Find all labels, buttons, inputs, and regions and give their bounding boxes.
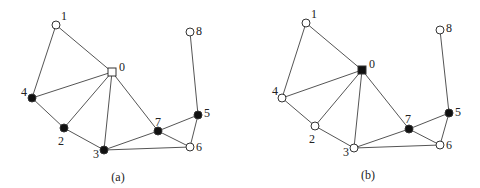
edge-7-6 xyxy=(409,129,440,145)
node-label: 6 xyxy=(196,140,202,154)
node-1 xyxy=(52,21,60,29)
edge-3-6 xyxy=(354,145,440,148)
node-label: 3 xyxy=(93,147,99,161)
edge-1-0 xyxy=(306,23,362,70)
node-label: 8 xyxy=(446,21,452,35)
node-label: 2 xyxy=(58,134,64,148)
edge-0-2 xyxy=(64,72,112,128)
graph-diagram: 012345678(a) 012345678(b) xyxy=(0,0,480,188)
graph-a: 012345678(a) xyxy=(21,9,210,184)
edge-0-7 xyxy=(362,70,409,129)
edge-5-8 xyxy=(440,30,449,113)
node-0 xyxy=(358,66,366,74)
node-2 xyxy=(60,124,68,132)
edge-1-0 xyxy=(56,25,112,72)
caption-b: (b) xyxy=(361,168,375,182)
node-3 xyxy=(350,144,358,152)
edge-5-8 xyxy=(190,32,198,115)
node-label: 4 xyxy=(272,84,278,98)
edge-0-4 xyxy=(32,72,112,98)
edge-4-2 xyxy=(32,98,64,128)
caption-a: (a) xyxy=(111,170,124,184)
edge-1-4 xyxy=(282,23,306,98)
node-7 xyxy=(405,125,413,133)
node-6 xyxy=(436,141,444,149)
node-label: 1 xyxy=(311,7,317,21)
node-3 xyxy=(100,146,108,154)
node-label: 7 xyxy=(155,115,161,129)
node-label: 8 xyxy=(196,24,202,38)
edge-4-2 xyxy=(282,98,315,126)
node-6 xyxy=(186,143,194,151)
edge-1-4 xyxy=(32,25,56,98)
node-label: 2 xyxy=(309,132,315,146)
edge-3-6 xyxy=(104,147,190,150)
node-1 xyxy=(302,19,310,27)
node-2 xyxy=(311,122,319,130)
edge-7-5 xyxy=(409,113,449,129)
node-8 xyxy=(436,26,444,34)
node-8 xyxy=(186,28,194,36)
edge-7-5 xyxy=(158,115,198,131)
edge-3-7 xyxy=(354,129,409,148)
graph-b: 012345678(b) xyxy=(272,7,461,182)
node-label: 1 xyxy=(61,9,67,23)
node-4 xyxy=(28,94,36,102)
edge-7-6 xyxy=(158,131,190,147)
edge-3-7 xyxy=(104,131,158,150)
edge-0-7 xyxy=(112,72,158,131)
node-label: 3 xyxy=(343,145,349,159)
edge-0-3 xyxy=(104,72,112,150)
node-5 xyxy=(445,109,453,117)
node-label: 0 xyxy=(119,60,125,74)
node-label: 5 xyxy=(455,105,461,119)
node-label: 0 xyxy=(369,57,375,71)
node-0 xyxy=(108,68,116,76)
node-label: 4 xyxy=(21,85,27,99)
node-5 xyxy=(194,111,202,119)
node-label: 5 xyxy=(204,106,210,120)
node-label: 7 xyxy=(405,112,411,126)
node-label: 6 xyxy=(446,138,452,152)
edge-0-3 xyxy=(354,70,362,148)
node-4 xyxy=(278,94,286,102)
